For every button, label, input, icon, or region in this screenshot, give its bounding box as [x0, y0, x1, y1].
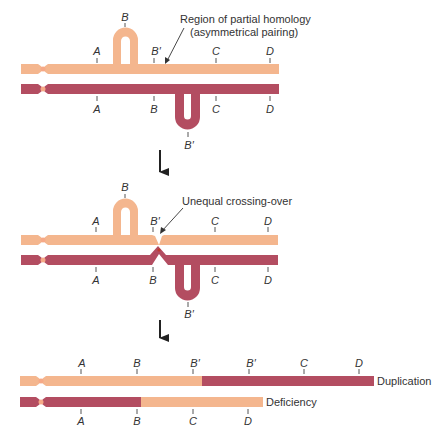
gene-label-B-prime: B′	[151, 45, 161, 57]
gene-label-A: A	[77, 357, 85, 369]
crossover-point	[157, 248, 160, 251]
deficiency-chromosome	[20, 397, 263, 407]
loop-gap	[121, 37, 130, 64]
gene-label-C: C	[211, 215, 219, 227]
centromere	[41, 238, 46, 243]
annotation-unequal-crossing-over: Unequal crossing-over	[182, 195, 292, 207]
gene-label-C: C	[189, 415, 197, 427]
loop-gap	[184, 94, 191, 120]
loop-gap	[184, 265, 191, 291]
panel-results: A B B′ B′ C D A B C D Duplication Defici…	[20, 357, 431, 427]
annotation-partial-homology: Region of partial homology	[180, 13, 311, 25]
gene-label-B-prime: B′	[184, 308, 194, 320]
gene-label-D: D	[264, 274, 272, 286]
gene-label-D: D	[244, 415, 252, 427]
light-segment	[141, 397, 263, 407]
centromere	[41, 67, 46, 72]
duplication-chromosome	[20, 376, 374, 386]
panel-unequal-crossing-over: A B B′ C D A B B′ C D Unequal crossing-o…	[21, 181, 292, 320]
gene-label-B-prime: B′	[184, 139, 194, 151]
gene-label-A: A	[92, 103, 100, 115]
panel-asymmetrical-pairing: A B B′ C D A B B′ C D Region of partial …	[21, 11, 311, 151]
gene-label-D: D	[264, 215, 272, 227]
dark-segment	[202, 376, 374, 386]
pointer-line	[162, 208, 183, 231]
gene-label-C: C	[211, 274, 219, 286]
gene-label-D: D	[355, 357, 363, 369]
light-segment	[20, 376, 202, 386]
gene-label-B: B	[121, 181, 128, 193]
gene-label-B: B	[121, 11, 128, 23]
centromere	[39, 400, 44, 405]
gene-label-D: D	[266, 45, 274, 57]
dark-segment	[20, 397, 141, 407]
gene-label-B-prime: B′	[150, 215, 160, 227]
centromere	[39, 379, 44, 384]
gene-label-A: A	[76, 415, 84, 427]
result-label-deficiency: Deficiency	[266, 396, 317, 408]
gene-label-A: A	[91, 215, 99, 227]
loop-gap	[121, 208, 130, 236]
centromere	[41, 258, 46, 263]
result-label-duplication: Duplication	[377, 375, 431, 387]
annotation-asymmetrical-pairing: (asymmetrical pairing)	[190, 26, 298, 38]
gene-label-B: B	[149, 274, 156, 286]
gene-label-C: C	[212, 103, 220, 115]
gene-label-B-prime: B′	[246, 357, 256, 369]
gene-label-B: B	[150, 103, 157, 115]
gene-label-A: A	[91, 274, 99, 286]
gene-label-D: D	[266, 103, 274, 115]
pointer-line	[167, 28, 184, 61]
unequal-crossing-over-diagram: A B B′ C D A B B′ C D Region of partial …	[0, 0, 448, 439]
gene-label-B: B	[133, 415, 140, 427]
gene-label-C: C	[212, 45, 220, 57]
gene-label-B: B	[133, 357, 140, 369]
gene-label-A: A	[92, 45, 100, 57]
gene-label-C: C	[300, 357, 308, 369]
centromere	[41, 87, 46, 92]
gene-label-B-prime: B′	[190, 357, 200, 369]
pointer-arrowhead-icon	[165, 57, 170, 64]
